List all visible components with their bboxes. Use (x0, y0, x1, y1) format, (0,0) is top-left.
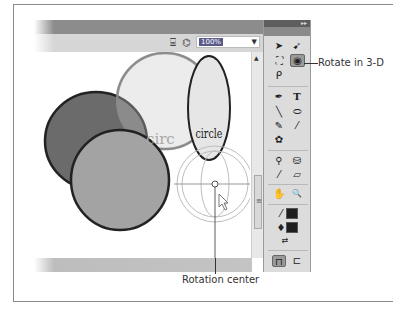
3d-rotation-tool-icon[interactable]: ◉ (290, 54, 305, 67)
fill-color-swatch[interactable] (286, 222, 298, 233)
eraser-tool-icon[interactable]: ▱ (290, 169, 304, 181)
callout-rotate-3d: Rotate in 3-D (318, 57, 384, 68)
rotation-center-point[interactable] (212, 181, 218, 187)
separator (268, 250, 308, 251)
oval-tool-icon[interactable]: ⬭ (290, 106, 304, 118)
paint-bucket-tool-icon[interactable]: ⛁ (290, 155, 304, 167)
deco-tool-icon[interactable]: ✿ (272, 134, 286, 146)
stage-artwork: circ circle (34, 52, 250, 258)
scroll-up-icon[interactable]: ▲ (254, 54, 259, 61)
stage-bottom-edge (34, 258, 252, 272)
scroll-thumb[interactable]: ≡ (254, 175, 262, 229)
pen-tool-icon[interactable]: ✒ (272, 91, 286, 103)
tools-header (264, 27, 310, 36)
zoom-value: 100% (199, 38, 223, 46)
cursor-icon (219, 194, 228, 210)
bone-tool-icon[interactable]: ⚲ (272, 155, 286, 167)
edit-scene-icon[interactable]: ⌸ (170, 38, 182, 48)
callout-line-rotation-center (215, 258, 216, 274)
callout-rotation-center: Rotation center (182, 274, 259, 285)
swap-colors-icon[interactable]: ⇄ (278, 235, 292, 247)
brush-tool-icon[interactable]: ⁄ (290, 120, 304, 132)
tools-panel: ▸▸ ➤ ➹ ⛶ ◉ ᑭ ✒ T ╲ ⬭ ✎ ⁄ ✿ ⚲ ⛁ ⁄ ▱ ✋ 🔍 ⁄… (263, 20, 311, 272)
hand-tool-icon[interactable]: ✋ (272, 188, 286, 200)
separator (268, 86, 308, 87)
ghost-text: circ (146, 130, 175, 148)
zoom-tool-icon[interactable]: 🔍 (290, 188, 304, 200)
separator (268, 184, 308, 185)
collapse-icon[interactable]: ▸▸ (301, 19, 307, 26)
line-tool-icon[interactable]: ╲ (272, 106, 286, 118)
subselection-tool-icon[interactable]: ➹ (290, 40, 304, 52)
zoom-select[interactable]: 100% ▼ (196, 36, 260, 48)
edit-symbols-icon[interactable]: ⌬ (182, 38, 194, 48)
separator (268, 204, 308, 205)
vertical-scrollbar[interactable]: ▲ ≡ (251, 52, 263, 258)
eyedropper-tool-icon[interactable]: ⁄ (272, 169, 286, 181)
callout-line-rotate-3d (304, 63, 318, 64)
app-title-bar (34, 20, 264, 34)
lasso-tool-icon[interactable]: ᑭ (272, 70, 286, 82)
rotated-ellipse[interactable] (188, 56, 230, 160)
grip-icon: ≡ (256, 198, 262, 205)
stroke-color-swatch[interactable] (286, 208, 298, 219)
selection-tool-icon[interactable]: ➤ (272, 40, 286, 52)
separator (268, 150, 308, 151)
snap-to-objects-icon[interactable]: ⊓ (272, 255, 286, 267)
pencil-tool-icon[interactable]: ✎ (272, 120, 286, 132)
tools-title-bar[interactable]: ▸▸ (264, 20, 310, 27)
stage[interactable]: circ circle (34, 52, 250, 258)
chevron-down-icon[interactable]: ▼ (252, 38, 257, 46)
free-transform-tool-icon[interactable]: ⛶ (272, 55, 286, 67)
text-tool-icon[interactable]: T (290, 91, 304, 103)
ellipse-text: circle (196, 127, 223, 141)
option-icon[interactable]: ⊏ (290, 255, 304, 267)
